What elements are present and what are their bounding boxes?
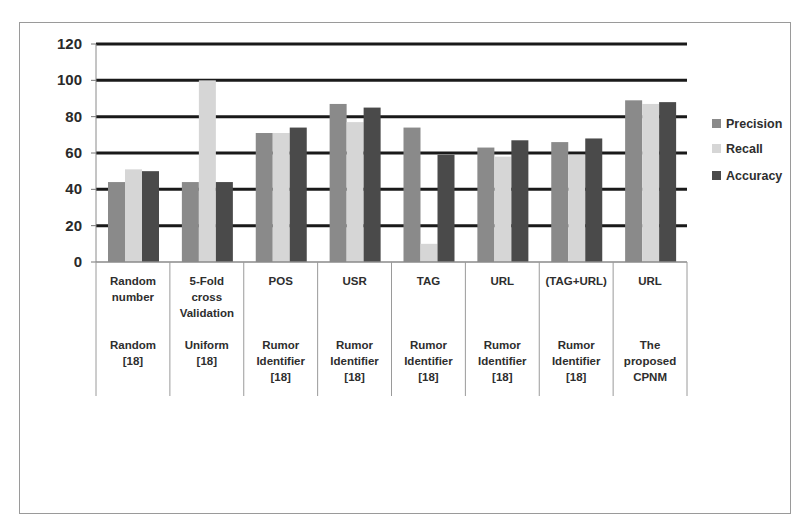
bar-recall <box>199 80 216 262</box>
legend-swatch-precision <box>712 119 721 128</box>
bar-accuracy <box>511 140 528 262</box>
category-feature-label: (TAG+URL) <box>545 275 607 287</box>
legend-label-precision: Precision <box>726 117 782 131</box>
category-feature-label: Random <box>110 275 156 287</box>
category-feature-label: TAG <box>417 275 440 287</box>
bar-accuracy <box>659 102 676 262</box>
category-method-label: Identifier <box>256 355 305 367</box>
category-feature-label: 5-Fold <box>190 275 225 287</box>
bar-chart: 020406080100120RandomnumberRandom[18]5-F… <box>0 0 808 529</box>
category-feature-label: URL <box>638 275 662 287</box>
category-method-label: CPNM <box>633 371 667 383</box>
category-method-label: Random <box>110 339 156 351</box>
category-feature-label: Validation <box>180 307 234 319</box>
category-method-label: [18] <box>197 355 218 367</box>
y-tick-label: 0 <box>74 253 82 270</box>
legend-label-accuracy: Accuracy <box>726 169 782 183</box>
legend-swatch-accuracy <box>712 171 721 180</box>
category-method-label: [18] <box>492 371 513 383</box>
bar-precision <box>330 104 347 262</box>
bar-precision <box>182 182 199 262</box>
bar-precision <box>551 142 568 262</box>
category-method-label: [18] <box>270 371 291 383</box>
bar-recall <box>642 104 659 262</box>
y-tick-label: 100 <box>57 71 82 88</box>
category-feature-label: cross <box>191 291 222 303</box>
category-method-label: Rumor <box>484 339 522 351</box>
category-feature-label: number <box>112 291 155 303</box>
category-feature-label: POS <box>269 275 294 287</box>
bar-precision <box>108 182 125 262</box>
legend-label-recall: Recall <box>726 142 763 156</box>
category-method-label: The <box>640 339 660 351</box>
category-method-label: [18] <box>418 371 439 383</box>
category-feature-label: URL <box>490 275 514 287</box>
bar-precision <box>477 148 494 262</box>
category-method-label: proposed <box>624 355 676 367</box>
category-method-label: Identifier <box>404 355 453 367</box>
y-tick-label: 20 <box>65 217 82 234</box>
legend-swatch-recall <box>712 144 721 153</box>
bar-accuracy <box>290 128 307 262</box>
y-tick-label: 120 <box>57 35 82 52</box>
category-method-label: Identifier <box>552 355 601 367</box>
bar-recall <box>568 155 585 262</box>
bar-precision <box>404 128 421 262</box>
category-method-label: Rumor <box>558 339 596 351</box>
bar-precision <box>625 100 642 262</box>
bar-precision <box>256 133 273 262</box>
y-tick-label: 60 <box>65 144 82 161</box>
y-tick-label: 40 <box>65 180 82 197</box>
y-tick-label: 80 <box>65 108 82 125</box>
bar-accuracy <box>585 138 602 262</box>
bar-recall <box>273 133 290 262</box>
bar-accuracy <box>216 182 233 262</box>
category-method-label: Identifier <box>478 355 527 367</box>
category-method-label: Rumor <box>336 339 374 351</box>
category-method-label: Identifier <box>330 355 379 367</box>
bar-accuracy <box>438 155 455 262</box>
category-method-label: [18] <box>566 371 587 383</box>
bar-recall <box>125 169 142 262</box>
bar-accuracy <box>364 108 381 262</box>
category-method-label: [18] <box>123 355 144 367</box>
category-method-label: Rumor <box>262 339 300 351</box>
category-method-label: Rumor <box>410 339 448 351</box>
category-feature-label: USR <box>342 275 367 287</box>
bar-recall <box>494 157 511 262</box>
bar-accuracy <box>142 171 159 262</box>
bar-recall <box>421 244 438 262</box>
category-method-label: [18] <box>344 371 365 383</box>
category-method-label: Uniform <box>185 339 229 351</box>
bar-recall <box>347 122 364 262</box>
